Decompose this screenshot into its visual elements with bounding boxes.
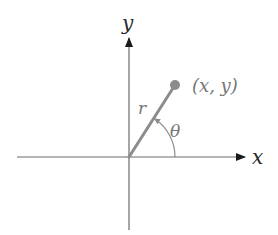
angle-label: θ [170,121,180,141]
y-axis-label: y [121,11,134,35]
radius-label: r [138,98,147,118]
radius-line [129,85,175,157]
point-marker [170,80,180,90]
point-label: (x, y) [192,75,238,96]
polar-diagram: x y (x, y) r θ [0,0,278,235]
x-axis-label: x [252,145,263,169]
